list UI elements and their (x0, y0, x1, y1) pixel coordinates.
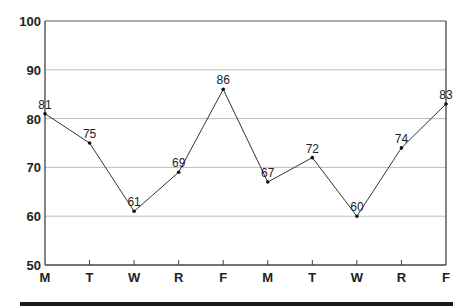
x-tick-label: R (174, 270, 184, 285)
x-tick-label: T (86, 270, 94, 285)
x-tick-label: F (442, 270, 450, 285)
axes (45, 21, 446, 265)
data-point (355, 214, 359, 218)
x-tick-label: M (262, 270, 273, 285)
data-label: 81 (38, 98, 52, 112)
data-label: 72 (306, 142, 320, 156)
data-point (266, 180, 270, 184)
y-tick-label: 60 (27, 209, 41, 224)
x-tick-label: W (128, 270, 141, 285)
y-tick-label: 90 (27, 63, 41, 78)
x-axis-ticks: MTWRFMTWRF (40, 260, 450, 285)
data-label: 74 (395, 132, 409, 146)
data-point (221, 88, 225, 92)
x-tick-label: F (219, 270, 227, 285)
data-point (43, 112, 47, 116)
gridlines (45, 21, 446, 216)
data-label: 83 (439, 88, 453, 102)
data-label: 67 (261, 166, 275, 180)
data-label: 75 (83, 127, 97, 141)
series-line-path (45, 89, 446, 216)
data-point (444, 102, 448, 106)
y-axis-ticks: 5060708090100 (19, 14, 41, 273)
data-point (400, 146, 404, 150)
line-chart: 5060708090100 MTWRFMTWRF 817561698667726… (0, 0, 474, 306)
x-tick-label: M (40, 270, 51, 285)
x-tick-label: T (308, 270, 316, 285)
y-tick-label: 80 (27, 112, 41, 127)
x-tick-label: R (397, 270, 407, 285)
data-point (311, 156, 315, 160)
data-point (132, 210, 136, 214)
data-label: 86 (217, 73, 231, 87)
y-tick-label: 70 (27, 160, 41, 175)
data-point (88, 141, 92, 145)
series-line (43, 88, 448, 218)
data-labels: 81756169866772607483 (38, 73, 453, 214)
x-tick-label: W (351, 270, 364, 285)
data-point (177, 170, 181, 174)
data-label: 61 (127, 195, 141, 209)
y-tick-label: 100 (19, 14, 41, 29)
bottom-rule (20, 302, 453, 306)
data-label: 69 (172, 156, 186, 170)
data-label: 60 (350, 200, 364, 214)
